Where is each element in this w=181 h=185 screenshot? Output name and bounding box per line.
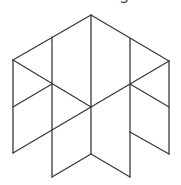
figure-edge-13 [52, 154, 91, 177]
figure-edge-14 [91, 154, 130, 177]
figure-edge-10 [130, 84, 169, 107]
figure-edge-12 [130, 132, 169, 154]
isometric-line-figure [0, 0, 181, 185]
figure-edge-9 [13, 84, 52, 107]
